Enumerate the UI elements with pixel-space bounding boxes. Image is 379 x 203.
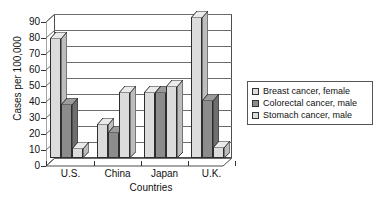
bar	[213, 147, 224, 158]
bar-front-face	[166, 86, 177, 158]
bar	[72, 148, 83, 158]
legend-swatch	[252, 88, 259, 95]
bar-side-face	[177, 80, 183, 158]
legend-item: Breast cancer, female	[252, 85, 369, 97]
category-separator-tick	[188, 161, 189, 166]
bar-group	[97, 14, 138, 158]
bar	[202, 100, 213, 158]
chart-figure: Cases per 100,000 0102030405060708090 U.…	[0, 0, 379, 203]
bar	[155, 92, 166, 158]
y-tick-label: 60	[29, 66, 40, 74]
bar-top-face	[61, 98, 78, 105]
y-tick-label: 30	[29, 114, 40, 122]
bar	[166, 86, 177, 158]
bar-front-face	[119, 92, 130, 158]
category-separator-tick	[141, 161, 142, 166]
x-category-label: U.K.	[182, 168, 241, 179]
y-tick-label: 90	[29, 18, 40, 26]
x-axis-category-labels: U.S.ChinaJapanU.K.	[46, 168, 246, 182]
bar-front-face	[202, 100, 213, 158]
bar-front-face	[50, 38, 61, 158]
bar-front-face	[191, 17, 202, 158]
bar-top-face	[119, 86, 136, 93]
bar-side-face	[130, 86, 136, 158]
bar	[97, 124, 108, 158]
legend-label: Colorectal cancer, male	[263, 97, 357, 109]
bar-front-face	[213, 147, 224, 158]
bar	[50, 38, 61, 158]
bar-top-face	[166, 80, 183, 87]
legend-swatch	[252, 100, 259, 107]
category-separator-tick	[235, 161, 236, 166]
bar-front-face	[97, 124, 108, 158]
plot-area	[46, 14, 232, 166]
bar-group	[50, 14, 91, 158]
bar-front-face	[155, 92, 166, 158]
gridline-depth-connector	[46, 158, 55, 167]
y-tick-label: 70	[29, 50, 40, 58]
y-tick-label: 20	[29, 130, 40, 138]
legend-label: Stomach cancer, male	[263, 109, 352, 121]
bar	[144, 92, 155, 158]
bar-top-face	[50, 32, 67, 39]
bar-top-face	[72, 142, 89, 149]
bar-front-face	[144, 92, 155, 158]
legend-item: Stomach cancer, male	[252, 109, 369, 121]
bar-top-face	[202, 94, 219, 101]
bar-group	[191, 14, 232, 158]
legend-swatch	[252, 112, 259, 119]
category-separator-tick	[94, 161, 95, 166]
y-tick-label: 80	[29, 34, 40, 42]
y-tick-label: 0	[34, 162, 40, 170]
chart-legend: Breast cancer, femaleColorectal cancer, …	[247, 81, 373, 125]
bar-group	[144, 14, 185, 158]
bar-top-face	[213, 141, 230, 148]
legend-label: Breast cancer, female	[263, 85, 350, 97]
x-axis-title: Countries	[96, 182, 206, 193]
gridline	[55, 158, 232, 159]
y-tick-label: 50	[29, 82, 40, 90]
bar	[119, 92, 130, 158]
bar-top-face	[191, 11, 208, 18]
bar-front-face	[61, 104, 72, 158]
bar	[191, 17, 202, 158]
bar-top-face	[97, 118, 114, 125]
bar	[61, 104, 72, 158]
bar-front-face	[72, 148, 83, 158]
category-separator-tick	[46, 161, 47, 166]
bar-front-face	[108, 132, 119, 158]
y-axis-tick-labels: 0102030405060708090	[18, 14, 40, 166]
y-tick-label: 40	[29, 98, 40, 106]
legend-item: Colorectal cancer, male	[252, 97, 369, 109]
bar	[108, 132, 119, 158]
y-tick-label: 10	[29, 146, 40, 154]
